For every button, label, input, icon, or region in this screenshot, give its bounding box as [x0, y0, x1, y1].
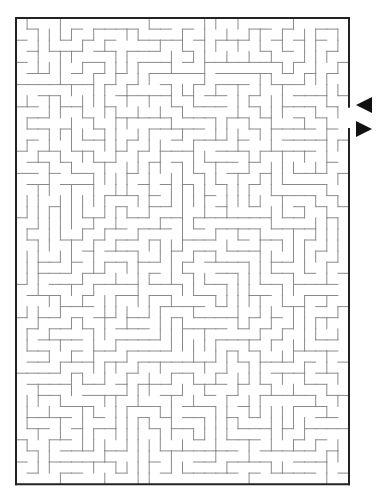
- maze-puzzle: [0, 0, 380, 501]
- maze-grid: [0, 0, 380, 501]
- maze-walls: [16, 18, 349, 484]
- entry-arrow-icon: [356, 97, 372, 113]
- exit-arrow-icon: [356, 121, 372, 137]
